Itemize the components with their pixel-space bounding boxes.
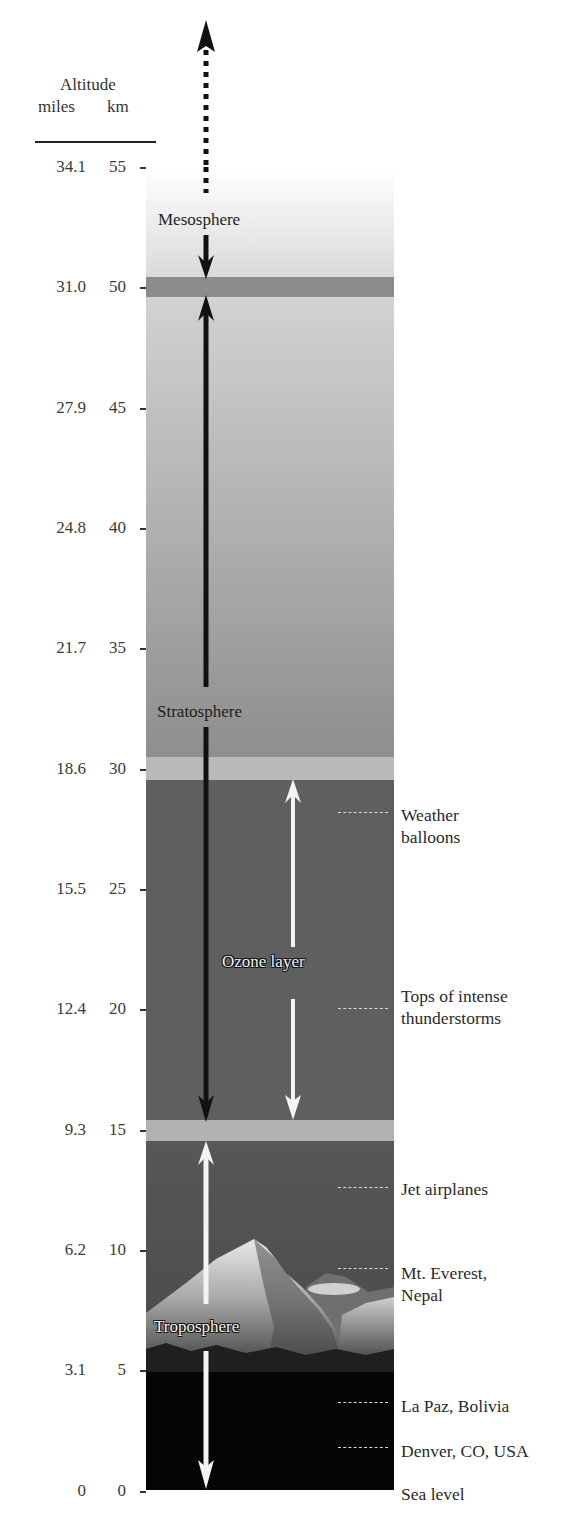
tick-km: 45 <box>96 398 126 418</box>
tick-km: 30 <box>96 759 126 779</box>
tick-miles: 0 <box>36 1481 86 1501</box>
marker-leader <box>338 1268 388 1269</box>
marker-leader <box>338 1447 388 1448</box>
mesosphere-up-arrow-icon <box>196 20 216 170</box>
tick-km: 0 <box>96 1481 126 1501</box>
marker-denver: Denver, CO, USA <box>401 1440 529 1462</box>
header-rule <box>35 141 156 143</box>
marker-leader <box>338 1008 388 1009</box>
mesosphere-label: Mesosphere <box>158 210 240 230</box>
tick-miles: 24.8 <box>36 518 86 538</box>
tick-km: 5 <box>96 1360 126 1380</box>
tick-miles: 31.0 <box>36 277 86 297</box>
tick-km: 25 <box>96 879 126 899</box>
tick-miles: 27.9 <box>36 398 86 418</box>
troposphere-label: Troposphere <box>154 1317 239 1337</box>
miles-unit-label: miles <box>38 97 75 117</box>
layer-arrows <box>146 167 394 1490</box>
tick-miles: 21.7 <box>36 638 86 658</box>
tick-miles: 18.6 <box>36 759 86 779</box>
tick-miles: 34.1 <box>36 157 86 177</box>
tick-km: 50 <box>96 277 126 297</box>
tick-miles: 15.5 <box>36 879 86 899</box>
marker-weather-balloons: Weather balloons <box>401 804 460 848</box>
tick-miles: 6.2 <box>36 1240 86 1260</box>
marker-sea-level: Sea level <box>401 1483 465 1505</box>
marker-leader <box>338 812 388 813</box>
tick-km: 15 <box>96 1120 126 1140</box>
tick-miles: 12.4 <box>36 999 86 1019</box>
stratosphere-label: Stratosphere <box>157 702 242 722</box>
tick-mark <box>140 1491 146 1493</box>
tick-km: 10 <box>96 1240 126 1260</box>
altitude-title: Altitude <box>60 75 116 95</box>
tick-km: 20 <box>96 999 126 1019</box>
tick-miles: 9.3 <box>36 1120 86 1140</box>
marker-mt-everest: Mt. Everest, Nepal <box>401 1262 487 1306</box>
marker-leader <box>338 1187 388 1188</box>
ozone-layer-label: Ozone layer <box>222 952 305 972</box>
tick-miles: 3.1 <box>36 1360 86 1380</box>
atmosphere-column <box>146 167 394 1490</box>
km-unit-label: km <box>107 97 129 117</box>
marker-jet-airplanes: Jet airplanes <box>401 1178 488 1200</box>
tick-km: 35 <box>96 638 126 658</box>
marker-thunderstorm-tops: Tops of intense thunderstorms <box>401 985 508 1029</box>
marker-leader <box>338 1402 388 1403</box>
tick-km: 40 <box>96 518 126 538</box>
marker-la-paz: La Paz, Bolivia <box>401 1395 509 1417</box>
tick-km: 55 <box>96 157 126 177</box>
